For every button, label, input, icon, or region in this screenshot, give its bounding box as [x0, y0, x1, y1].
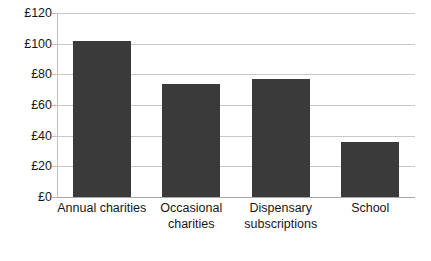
- x-tick-label-line: School: [326, 201, 416, 217]
- gridline-0: [57, 197, 415, 198]
- x-tick-label: School: [326, 201, 416, 217]
- y-tick-mark: [52, 74, 57, 75]
- y-tick-label-100: £100: [0, 37, 52, 51]
- x-tick-label-line: Dispensary: [236, 201, 326, 217]
- y-tick-mark: [52, 197, 57, 198]
- bar-chart: £0£20£40£60£80£100£120 Annual charitiesO…: [0, 0, 431, 261]
- plot-area: [57, 13, 415, 197]
- y-tick-label-40: £40: [0, 129, 52, 143]
- bar: [341, 142, 399, 197]
- gridline-120: [57, 13, 415, 14]
- y-tick-label-20: £20: [0, 159, 52, 173]
- y-tick-label-120: £120: [0, 6, 52, 20]
- y-tick-mark: [52, 13, 57, 14]
- y-tick-label-60: £60: [0, 98, 52, 112]
- x-tick-label-line: charities: [147, 217, 237, 233]
- y-axis-labels: £0£20£40£60£80£100£120: [0, 0, 52, 261]
- x-tick-label: Annual charities: [57, 201, 147, 217]
- x-tick-label: Dispensarysubscriptions: [236, 201, 326, 232]
- y-tick-mark: [52, 166, 57, 167]
- bar: [252, 79, 310, 197]
- x-tick-label: Occasionalcharities: [147, 201, 237, 232]
- bar: [162, 84, 220, 197]
- x-tick-label-line: Occasional: [147, 201, 237, 217]
- bar: [73, 41, 131, 197]
- x-tick-label-line: subscriptions: [236, 217, 326, 233]
- y-tick-label-0: £0: [0, 190, 52, 204]
- y-tick-label-80: £80: [0, 67, 52, 81]
- x-tick-label-line: Annual charities: [57, 201, 147, 217]
- y-tick-mark: [52, 105, 57, 106]
- x-axis-labels: Annual charitiesOccasionalcharitiesDispe…: [57, 201, 415, 257]
- y-tick-mark: [52, 44, 57, 45]
- y-tick-mark: [52, 136, 57, 137]
